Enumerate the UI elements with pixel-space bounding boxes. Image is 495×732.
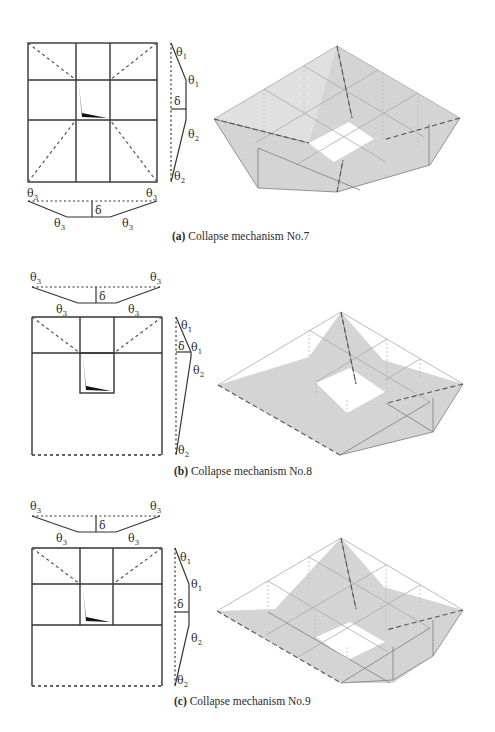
svg-text:θ3: θ3 xyxy=(30,500,41,515)
svg-text:θ2: θ2 xyxy=(177,674,188,689)
svg-text:δ: δ xyxy=(99,519,106,532)
plan-view-c xyxy=(32,548,162,686)
figure-caption-c: (c) Collapse mechanism No.9 xyxy=(174,695,311,707)
isometric-view-c xyxy=(217,538,463,683)
top-profile-c xyxy=(32,516,160,532)
svg-text:δ: δ xyxy=(177,598,184,611)
yield-lines-c xyxy=(32,548,162,584)
svg-text:θ3: θ3 xyxy=(150,500,161,515)
figure-c: θ3 θ3 δ θ3 θ3 θ1 θ xyxy=(0,0,495,732)
corner-column-icon xyxy=(83,590,110,622)
svg-text:θ3: θ3 xyxy=(56,532,67,547)
figure-c-drawing: θ3 θ3 δ θ3 θ3 θ1 θ xyxy=(0,0,495,732)
side-profile-c xyxy=(175,548,189,686)
svg-text:θ3: θ3 xyxy=(128,532,139,547)
svg-text:θ1: θ1 xyxy=(191,578,202,593)
svg-text:θ2: θ2 xyxy=(191,632,202,647)
caption-tag: (c) xyxy=(174,695,187,707)
caption-text: Collapse mechanism No.9 xyxy=(190,695,311,707)
svg-text:θ1: θ1 xyxy=(180,551,191,566)
